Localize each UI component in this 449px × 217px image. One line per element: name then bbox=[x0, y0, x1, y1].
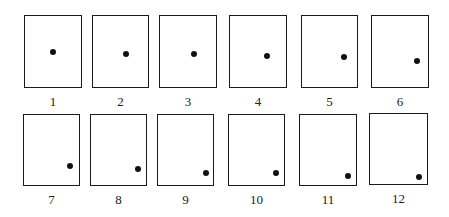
dot-marker bbox=[273, 170, 279, 176]
frame-label: 12 bbox=[392, 192, 405, 205]
frame-box bbox=[229, 15, 287, 88]
frame-label: 6 bbox=[397, 95, 404, 108]
frame-label: 5 bbox=[326, 95, 333, 108]
dot-marker bbox=[416, 174, 422, 180]
dot-marker bbox=[414, 58, 420, 64]
frame-label: 10 bbox=[250, 193, 263, 206]
frame-box bbox=[159, 15, 217, 88]
dot-marker bbox=[135, 166, 141, 172]
frame-box bbox=[23, 114, 80, 186]
dot-marker bbox=[345, 173, 351, 179]
frame-box bbox=[301, 15, 358, 88]
frame-label: 1 bbox=[50, 95, 57, 108]
frame-label: 2 bbox=[117, 95, 124, 108]
frame-label: 3 bbox=[185, 95, 192, 108]
dot-marker bbox=[191, 51, 197, 57]
frame-box bbox=[371, 15, 429, 88]
frame-box bbox=[92, 15, 149, 88]
frame-box bbox=[90, 114, 147, 186]
dot-marker bbox=[67, 163, 73, 169]
dot-marker bbox=[123, 51, 129, 57]
frame-label: 8 bbox=[115, 193, 122, 206]
dot-marker bbox=[264, 53, 270, 59]
dot-marker bbox=[341, 54, 347, 60]
frame-label: 4 bbox=[255, 95, 262, 108]
frame-label: 9 bbox=[182, 193, 189, 206]
frame-label: 7 bbox=[48, 193, 55, 206]
dot-marker bbox=[203, 170, 209, 176]
frame-label: 11 bbox=[322, 193, 335, 206]
dot-marker bbox=[50, 49, 56, 55]
